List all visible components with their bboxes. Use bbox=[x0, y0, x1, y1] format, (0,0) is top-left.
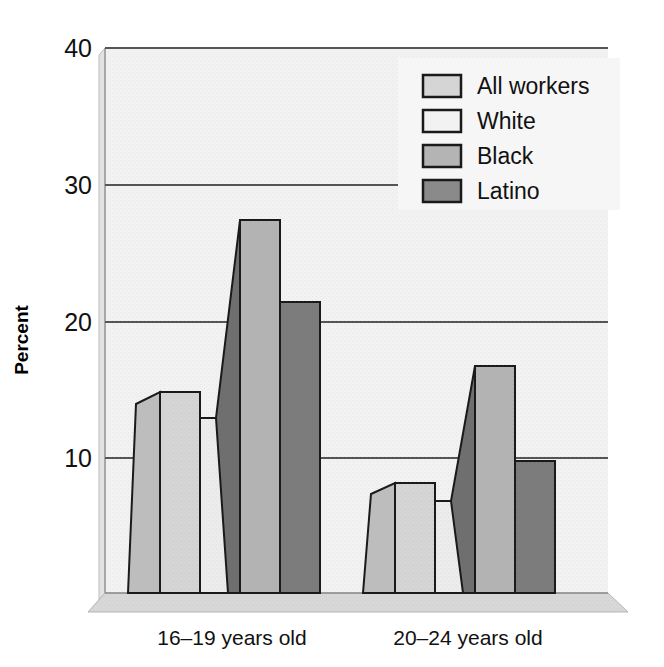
legend-swatch-latino bbox=[423, 180, 461, 202]
bar-texture bbox=[281, 303, 319, 592]
bar-texture bbox=[161, 393, 199, 592]
legend-item-black[interactable]: Black bbox=[423, 143, 534, 169]
legend-swatch-all-workers bbox=[423, 75, 461, 97]
legend-swatch-black bbox=[423, 145, 461, 167]
plot-floor-texture bbox=[88, 593, 628, 612]
category-label-20-24: 20–24 years old bbox=[393, 626, 542, 649]
legend-label-white: White bbox=[477, 108, 536, 134]
bar-latino-16-19[interactable] bbox=[280, 302, 320, 593]
plot-left-wall bbox=[99, 48, 105, 600]
y-tick-40: 40 bbox=[64, 34, 92, 62]
bar-all-workers-20-24[interactable] bbox=[363, 483, 435, 593]
bar-texture bbox=[476, 367, 514, 592]
x-category-labels: 16–19 years old 20–24 years old bbox=[157, 626, 542, 649]
y-tick-10: 10 bbox=[64, 444, 92, 472]
legend-item-all-workers[interactable]: All workers bbox=[423, 73, 589, 99]
bar-all-workers-16-19[interactable] bbox=[128, 392, 200, 593]
bar-texture bbox=[516, 462, 554, 592]
legend-label-all-workers: All workers bbox=[477, 73, 589, 99]
legend-item-latino[interactable]: Latino bbox=[423, 178, 540, 204]
legend-item-white[interactable]: White bbox=[423, 108, 536, 134]
chart-legend: All workers White Black Latino bbox=[398, 58, 620, 210]
legend-label-latino: Latino bbox=[477, 178, 540, 204]
bar-texture bbox=[241, 221, 279, 592]
chart-figure: 40 30 20 10 Percent bbox=[0, 0, 664, 667]
y-axis-title: Percent bbox=[11, 304, 32, 374]
bar-latino-20-24[interactable] bbox=[515, 461, 555, 593]
y-tick-30: 30 bbox=[64, 171, 92, 199]
bar-texture bbox=[396, 484, 434, 592]
legend-swatch-white bbox=[423, 110, 461, 132]
y-tick-20: 20 bbox=[64, 308, 92, 336]
bar-chart: 40 30 20 10 Percent bbox=[0, 0, 664, 667]
category-label-16-19: 16–19 years old bbox=[157, 626, 306, 649]
legend-label-black: Black bbox=[477, 143, 534, 169]
y-tick-labels: 40 30 20 10 bbox=[64, 34, 92, 472]
